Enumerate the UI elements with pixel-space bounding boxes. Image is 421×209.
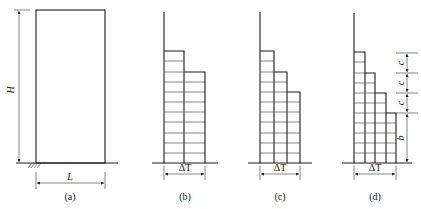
panel-caption: (d)	[369, 191, 381, 203]
panel-c: ΔT (c)	[248, 12, 312, 203]
delta-t-label: ΔT	[179, 162, 192, 173]
panel-b: ΔT (b)	[152, 12, 218, 203]
panel-caption: (a)	[64, 191, 75, 203]
dim-label-c1: c	[395, 60, 406, 65]
dim-label-c3: c	[395, 100, 406, 105]
delta-t-label: ΔT	[274, 162, 287, 173]
panel-caption: (c)	[274, 191, 285, 203]
stepped-load-diagram: H L (a) ΔT (b)	[0, 0, 421, 209]
panel-d: c c c b ΔT (d)	[342, 13, 418, 203]
height-label: H	[5, 86, 16, 95]
panel-a: H L (a)	[5, 10, 118, 203]
wall-rectangle	[36, 10, 105, 163]
dim-label-c2: c	[395, 80, 406, 85]
panel-caption: (b)	[179, 191, 191, 203]
step-outline	[260, 51, 300, 163]
grid-lines	[260, 61, 300, 153]
width-label: L	[66, 171, 73, 182]
fixed-support-icon	[28, 163, 41, 168]
delta-t-label: ΔT	[369, 162, 382, 173]
dim-label-b: b	[395, 136, 406, 141]
step-dimensions: c c c b	[395, 53, 418, 162]
